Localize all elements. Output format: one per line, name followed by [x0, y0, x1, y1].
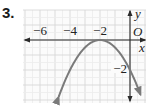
parabola-graph: −6−4−2−2Oxy — [0, 0, 146, 110]
origin-label: O — [133, 24, 143, 39]
y-axis-label: y — [133, 6, 141, 21]
x-tick-label: −6 — [33, 23, 47, 38]
x-tick-label: −4 — [63, 23, 77, 38]
y-tick-label: −2 — [113, 61, 127, 76]
x-tick-label: −2 — [93, 23, 107, 38]
x-axis-label: x — [138, 40, 145, 55]
